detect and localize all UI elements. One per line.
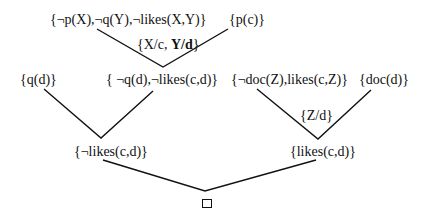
clause-c2: {p(c)} (229, 12, 265, 28)
clause-c1: {¬p(X),¬q(Y),¬likes(X,Y)} (50, 12, 206, 28)
clause-c4: { ¬q(d),¬likes(c,d)} (106, 72, 218, 88)
clause-c7: {¬likes(c,d)} (74, 144, 148, 160)
substitution-1: {X/c, Y/d} (137, 37, 199, 53)
substitution-1-bold: Y/d (171, 37, 193, 52)
empty-clause-icon (202, 199, 212, 208)
substitution-2: {Z/d} (300, 108, 333, 124)
substitution-1-part-a: {X/c, (137, 37, 171, 52)
clause-c8: {likes(c,d)} (290, 144, 356, 160)
clause-c3: {q(d)} (20, 72, 57, 88)
edge-pair-bottom (103, 160, 316, 191)
clause-c5: {¬doc(Z),likes(c,Z)} (231, 72, 348, 88)
resolution-edges (0, 0, 423, 220)
edge-pair-left (44, 89, 153, 138)
substitution-1-part-c: } (193, 37, 200, 52)
clause-c6: {doc(d)} (359, 72, 409, 88)
